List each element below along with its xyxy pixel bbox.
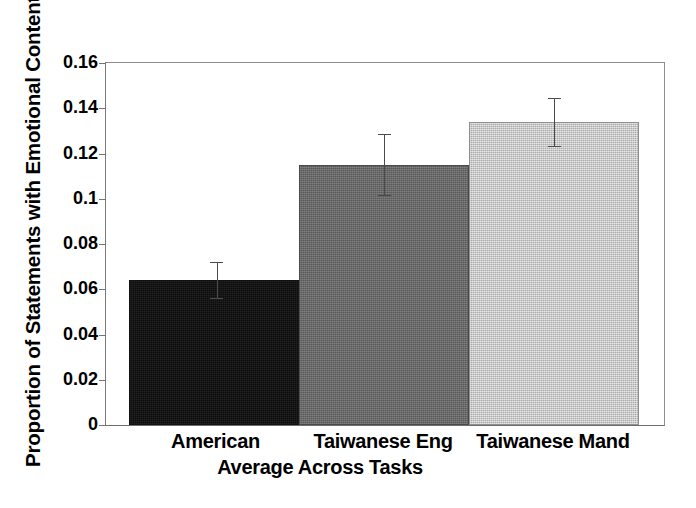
y-axis-tick-mark [99,199,106,200]
error-bar-cap-upper [378,134,391,135]
y-axis-tick-mark [99,63,106,64]
x-axis-tick-label-taiwanese-mand: Taiwanese Mand [476,430,629,453]
y-axis-tick-label: 0.04 [36,325,98,343]
plot-inner [106,63,664,425]
y-axis-tick-mark [99,154,106,155]
y-axis-tick-label: 0.16 [36,53,98,71]
y-axis-tick-label: 0.1 [36,189,98,207]
y-axis-tick-label: 0.02 [36,370,98,388]
error-bar-line [384,134,385,195]
y-axis-tick-mark [99,425,106,426]
error-bar-cap-lower [548,146,561,147]
error-bar-line [217,262,218,298]
bar-chart-figure: Proportion of Statements with Emotional … [0,0,696,508]
y-axis-tick-mark [99,289,106,290]
y-axis-tick-label: 0 [36,415,98,433]
error-bar-cap-upper [548,98,561,99]
y-axis-tick-mark [99,108,106,109]
error-bar-line [554,98,555,146]
y-axis-tick-label: 0.06 [36,279,98,297]
x-axis-tick-label-american: American [171,430,260,453]
y-axis-tick-labels: 00.020.040.060.080.10.120.140.16 [36,0,98,508]
y-axis-tick-mark [99,335,106,336]
bar-taiwanese-mand [469,122,639,425]
bar-taiwanese-eng [299,165,469,425]
error-bar-cap-lower [378,195,391,196]
error-bar-cap-lower [210,298,223,299]
plot-area [105,62,665,426]
x-axis-tick-label-taiwanese-eng: Taiwanese Eng [313,430,452,453]
y-axis-tick-mark [99,380,106,381]
bar-american [129,280,304,425]
x-axis-tick-labels: AmericanTaiwanese EngTaiwanese Mand [105,430,663,458]
y-axis-tick-label: 0.08 [36,234,98,252]
y-axis-tick-mark [99,244,106,245]
y-axis-tick-label: 0.14 [36,98,98,116]
error-bar-cap-upper [210,262,223,263]
y-axis-tick-label: 0.12 [36,144,98,162]
x-axis-title: Average Across Tasks [105,456,535,479]
